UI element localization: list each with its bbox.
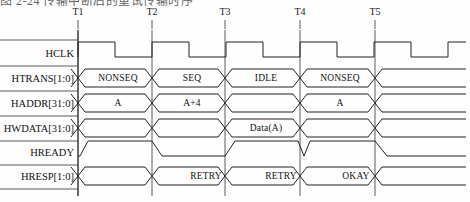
signal-waveforms bbox=[71, 42, 466, 185]
left-axis-line bbox=[0, 30, 78, 196]
bus-value-haddr-6: A bbox=[336, 98, 343, 108]
waveform-canvas bbox=[0, 0, 470, 202]
bus-value-htrans-2: IDLE bbox=[255, 73, 277, 83]
bus-value-hresp-9: RETRY bbox=[265, 171, 297, 181]
bus-value-htrans-0: NONSEQ bbox=[98, 73, 138, 83]
bus-value-hresp-10: OKAY bbox=[342, 171, 369, 181]
bus-value-hresp-8: RETRY bbox=[190, 171, 222, 181]
bus-value-hwdata-7: Data(A) bbox=[250, 123, 283, 133]
bus-value-htrans-1: SEQ bbox=[183, 73, 202, 83]
bus-value-haddr-4: A bbox=[114, 98, 121, 108]
bus-value-haddr-5: A+4 bbox=[183, 98, 201, 108]
waveform-haddr bbox=[71, 94, 466, 112]
waveform-hclk bbox=[78, 42, 466, 57]
waveform-hready bbox=[78, 141, 466, 156]
bus-value-htrans-3: NONSEQ bbox=[320, 73, 360, 83]
timing-diagram-page: 图 2-24 传输中断后的重试传输时序 T1T2T3T4T5 HCLKHTRAN… bbox=[0, 0, 470, 202]
